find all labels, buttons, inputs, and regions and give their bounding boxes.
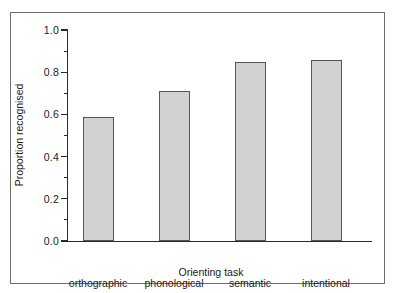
y-axis-title-wrap: Proportion recognised: [0, 28, 38, 242]
bar-chart-figure: Proportion recognised 0.00.20.40.60.81.0…: [0, 0, 398, 293]
y-axis-major-tick: [61, 114, 68, 115]
bar: [83, 117, 114, 241]
x-axis-tick-label: orthographic: [69, 277, 127, 289]
y-axis-major-tick: [61, 29, 68, 30]
y-axis-title: Proportion recognised: [13, 84, 25, 187]
y-axis-tick-label: 0.2: [44, 193, 59, 205]
y-axis-tick-label: 0.6: [44, 108, 59, 120]
y-axis-tick-label: 0.4: [44, 151, 59, 163]
x-axis-tick-label: semantic: [229, 277, 271, 289]
y-axis-minor-tick: [64, 93, 69, 94]
bar: [159, 91, 190, 241]
y-axis-minor-tick: [64, 135, 69, 136]
y-axis-tick-label: 1.0: [44, 24, 59, 36]
x-axis-line: [67, 241, 372, 242]
plot-area: 0.00.20.40.60.81.0orthographicphonologic…: [68, 30, 372, 241]
bar: [235, 62, 266, 241]
y-axis-major-tick: [61, 72, 68, 73]
y-axis-minor-tick: [64, 51, 69, 52]
x-axis-tick-label: intentional: [302, 277, 350, 289]
x-axis-tick-label: phonological: [145, 277, 204, 289]
x-axis-title-text: Orienting task: [179, 266, 244, 278]
x-axis-title: Orienting task: [0, 266, 398, 278]
y-axis-major-tick: [61, 156, 68, 157]
y-axis-tick-label: 0.8: [44, 66, 59, 78]
y-axis-minor-tick: [64, 219, 69, 220]
y-axis-tick-label: 0.0: [44, 235, 59, 247]
y-axis-major-tick: [61, 198, 68, 199]
y-axis-minor-tick: [64, 177, 69, 178]
y-axis-major-tick: [61, 240, 68, 241]
bar: [311, 60, 342, 241]
